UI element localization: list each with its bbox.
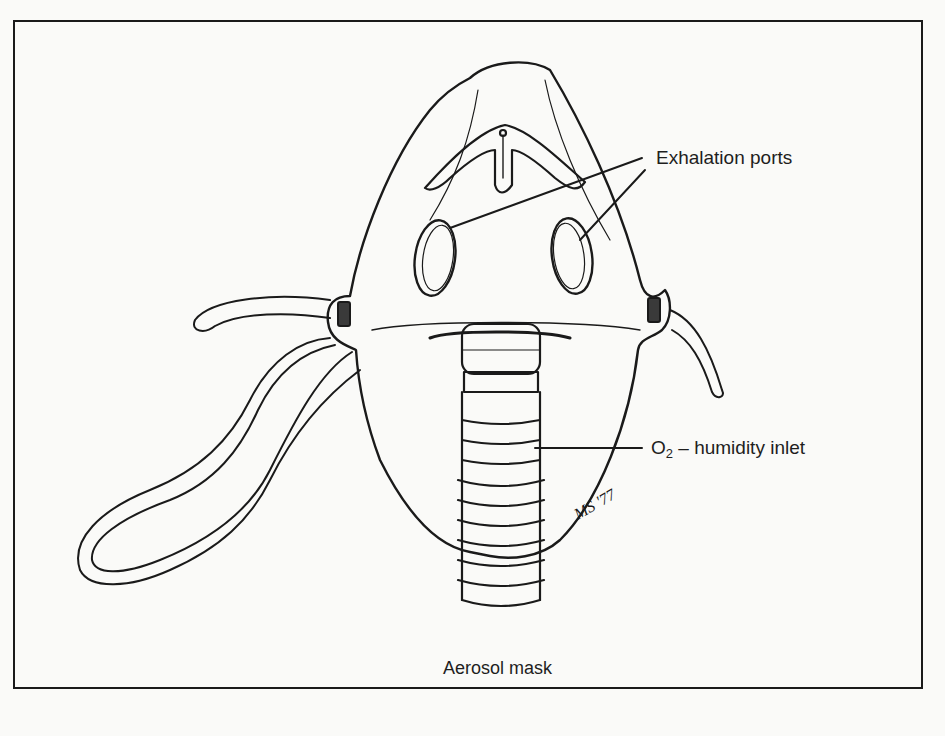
label-humidity-inlet: O2 – humidity inlet [651, 437, 805, 461]
mask-body [328, 62, 670, 557]
inlet-subscript: 2 [666, 446, 673, 461]
exhalation-port-left [410, 218, 460, 299]
aerosol-mask-illustration: MS '77 [0, 0, 945, 736]
leader-lines [450, 158, 645, 448]
inlet-connector [430, 324, 570, 392]
ear-clip-left [338, 302, 350, 326]
ear-clip-right [648, 298, 660, 322]
exhalation-port-right [547, 216, 597, 297]
corrugated-tube [458, 392, 544, 606]
right-strap [670, 310, 723, 397]
label-exhalation-ports: Exhalation ports [656, 147, 792, 169]
figure-caption: Aerosol mask [443, 658, 552, 679]
inlet-prefix: O [651, 437, 666, 458]
left-strap [78, 297, 360, 584]
inlet-suffix: – humidity inlet [673, 437, 805, 458]
